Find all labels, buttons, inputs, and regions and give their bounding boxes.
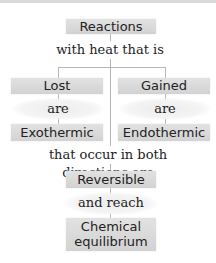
node-label: Chemical — [66, 219, 156, 234]
connector — [58, 67, 166, 68]
node-label: Reactions — [79, 19, 142, 34]
node-reversible: Reversible — [66, 171, 156, 188]
node-lost: Lost — [11, 78, 103, 94]
node-label: Exothermic — [20, 125, 93, 140]
link-and-reach: and reach — [66, 194, 156, 212]
node-reactions: Reactions — [66, 19, 156, 34]
link-both-directions: that occur in both directions are — [20, 146, 196, 164]
node-label: Lost — [44, 78, 71, 93]
node-label: Reversible — [77, 172, 145, 187]
node-label: Gained — [141, 78, 187, 93]
link-are-left: are — [38, 100, 78, 118]
link-with-heat: with heat that is — [40, 41, 180, 59]
node-gained: Gained — [118, 78, 210, 94]
link-are-right: are — [145, 100, 185, 118]
node-chemical-equilibrium: Chemical equilibrium — [66, 218, 156, 251]
node-label: equilibrium — [66, 234, 156, 249]
node-exothermic: Exothermic — [11, 124, 103, 141]
node-endothermic: Endothermic — [118, 124, 210, 141]
node-label: Endothermic — [123, 125, 206, 140]
top-border — [0, 0, 216, 3]
